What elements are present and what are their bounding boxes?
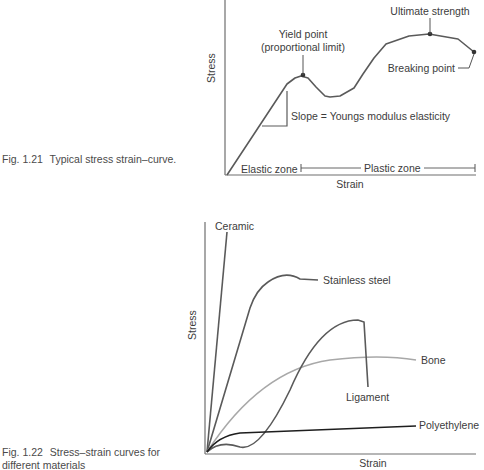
stainless-steel-curve bbox=[207, 275, 318, 452]
ligament-curve bbox=[207, 320, 368, 452]
polyethylene-curve bbox=[207, 426, 416, 452]
polyethylene-label: Polyethylene bbox=[419, 419, 479, 431]
plastic-zone-label: Plastic zone bbox=[364, 162, 421, 174]
x-axis-label: Strain bbox=[336, 178, 364, 190]
ligament-label: Ligament bbox=[346, 391, 389, 403]
x-axis-label: Strain bbox=[359, 457, 387, 469]
yield-point-sublabel: (proportional limit) bbox=[261, 41, 345, 53]
breaking-point-marker bbox=[472, 50, 477, 55]
y-axis-label: Stress bbox=[186, 310, 198, 340]
bone-label: Bone bbox=[421, 354, 446, 366]
yield-point-label: Yield point bbox=[279, 28, 328, 40]
chart-typical-stress-strain: Stress Strain Yield point (proportional … bbox=[205, 0, 476, 190]
chart-materials-stress-strain: Stress Strain Ceramic Stainless steel Bo… bbox=[186, 220, 479, 469]
slope-triangle bbox=[262, 91, 287, 126]
slope-label: Slope = Youngs modulus elasticity bbox=[291, 110, 451, 122]
elastic-zone-label: Elastic zone bbox=[241, 163, 298, 175]
breaking-point-label: Breaking point bbox=[388, 62, 455, 74]
figures-canvas: Stress Strain Yield point (proportional … bbox=[0, 0, 484, 470]
bone-curve bbox=[207, 357, 416, 452]
breaking-point-leader bbox=[458, 54, 474, 68]
ceramic-label: Ceramic bbox=[215, 220, 254, 232]
stress-strain-curve bbox=[227, 34, 474, 175]
ultimate-strength-label: Ultimate strength bbox=[390, 5, 470, 17]
y-axis-label: Stress bbox=[205, 53, 217, 83]
stainless-steel-label: Stainless steel bbox=[323, 274, 391, 286]
